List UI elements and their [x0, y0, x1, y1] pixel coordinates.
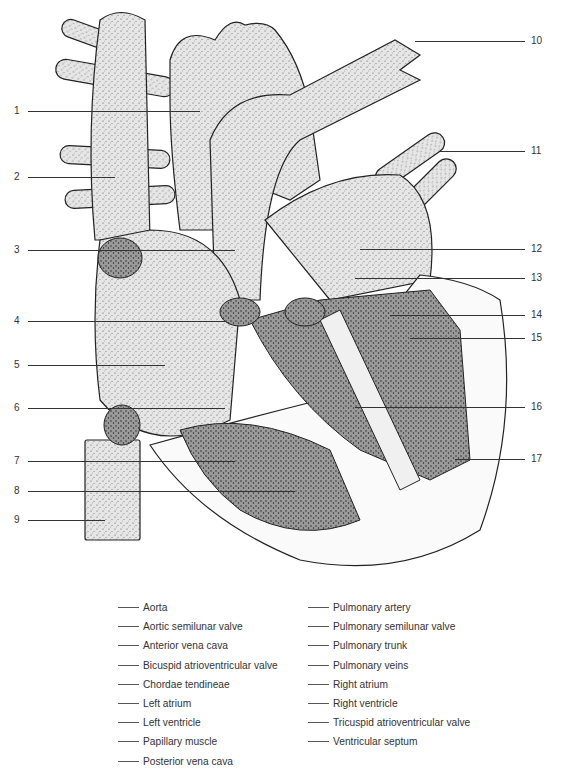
label-number-3: 3 — [14, 244, 20, 256]
label-number-5: 5 — [14, 359, 20, 371]
label-number-8: 8 — [14, 485, 20, 497]
label-number-17: 17 — [531, 453, 542, 465]
leader-line-14 — [390, 315, 525, 316]
answer-blank[interactable] — [118, 703, 139, 704]
leader-line-15 — [410, 338, 525, 339]
label-number-1: 1 — [14, 105, 20, 117]
label-number-6: 6 — [14, 402, 20, 414]
answer-column-1: Aorta Aortic semilunar valve Anterior ve… — [118, 598, 278, 771]
answer-blank[interactable] — [118, 722, 139, 723]
term-right-ventricle: Right ventricle — [308, 694, 470, 713]
answer-blank[interactable] — [308, 626, 329, 627]
answer-blank[interactable] — [308, 722, 329, 723]
label-number-10: 10 — [531, 35, 542, 47]
label-number-4: 4 — [14, 315, 20, 327]
heart-diagram: 1 2 3 4 5 6 7 8 9 10 11 12 13 14 15 16 1… — [0, 0, 563, 580]
term-pulmonary-semilunar-valve: Pulmonary semilunar valve — [308, 617, 470, 636]
term-pulmonary-artery: Pulmonary artery — [308, 598, 470, 617]
term-anterior-vena-cava: Anterior vena cava — [118, 636, 278, 655]
leader-line-10 — [415, 41, 525, 42]
term-left-ventricle: Left ventricle — [118, 713, 278, 732]
answer-blank[interactable] — [308, 645, 329, 646]
label-number-2: 2 — [14, 171, 20, 183]
term-pulmonary-veins: Pulmonary veins — [308, 656, 470, 675]
answer-blank[interactable] — [118, 626, 139, 627]
answer-blank[interactable] — [118, 741, 139, 742]
leader-line-8 — [28, 491, 295, 492]
leader-line-3 — [28, 250, 235, 251]
term-tricuspid-valve: Tricuspid atrioventricular valve — [308, 713, 470, 732]
answer-blank[interactable] — [308, 703, 329, 704]
label-number-9: 9 — [14, 514, 20, 526]
answer-column-2: Pulmonary artery Pulmonary semilunar val… — [308, 598, 470, 752]
label-number-14: 14 — [531, 309, 542, 321]
label-number-12: 12 — [531, 243, 542, 255]
leader-line-6 — [28, 408, 225, 409]
label-number-15: 15 — [531, 332, 542, 344]
answer-blank[interactable] — [118, 607, 139, 608]
leader-line-16 — [355, 407, 525, 408]
leader-line-9 — [28, 520, 105, 521]
term-bicuspid-valve: Bicuspid atrioventricular valve — [118, 656, 278, 675]
leader-line-13 — [355, 278, 525, 279]
label-number-16: 16 — [531, 401, 542, 413]
leader-line-4 — [28, 321, 225, 322]
answer-blank[interactable] — [118, 684, 139, 685]
leader-line-2 — [28, 177, 115, 178]
answer-blank[interactable] — [308, 741, 329, 742]
leader-line-1 — [28, 111, 200, 112]
leader-line-11 — [440, 151, 525, 152]
answer-blank[interactable] — [308, 607, 329, 608]
term-pulmonary-trunk: Pulmonary trunk — [308, 636, 470, 655]
term-right-atrium: Right atrium — [308, 675, 470, 694]
answer-blank[interactable] — [308, 665, 329, 666]
term-aortic-semilunar-valve: Aortic semilunar valve — [118, 617, 278, 636]
answer-blank[interactable] — [118, 645, 139, 646]
leader-line-5 — [28, 365, 165, 366]
leader-line-17 — [455, 459, 525, 460]
answer-blank[interactable] — [118, 761, 139, 762]
term-posterior-vena-cava: Posterior vena cava — [118, 752, 278, 771]
heart-illustration — [0, 0, 563, 580]
term-left-atrium: Left atrium — [118, 694, 278, 713]
leader-line-7 — [28, 461, 235, 462]
term-aorta: Aorta — [118, 598, 278, 617]
term-papillary-muscle: Papillary muscle — [118, 732, 278, 751]
term-ventricular-septum: Ventricular septum — [308, 732, 470, 751]
answer-blank[interactable] — [308, 684, 329, 685]
term-chordae-tendineae: Chordae tendineae — [118, 675, 278, 694]
label-number-13: 13 — [531, 272, 542, 284]
answer-blank[interactable] — [118, 665, 139, 666]
label-number-7: 7 — [14, 455, 20, 467]
label-number-11: 11 — [531, 145, 541, 157]
leader-line-12 — [360, 249, 525, 250]
